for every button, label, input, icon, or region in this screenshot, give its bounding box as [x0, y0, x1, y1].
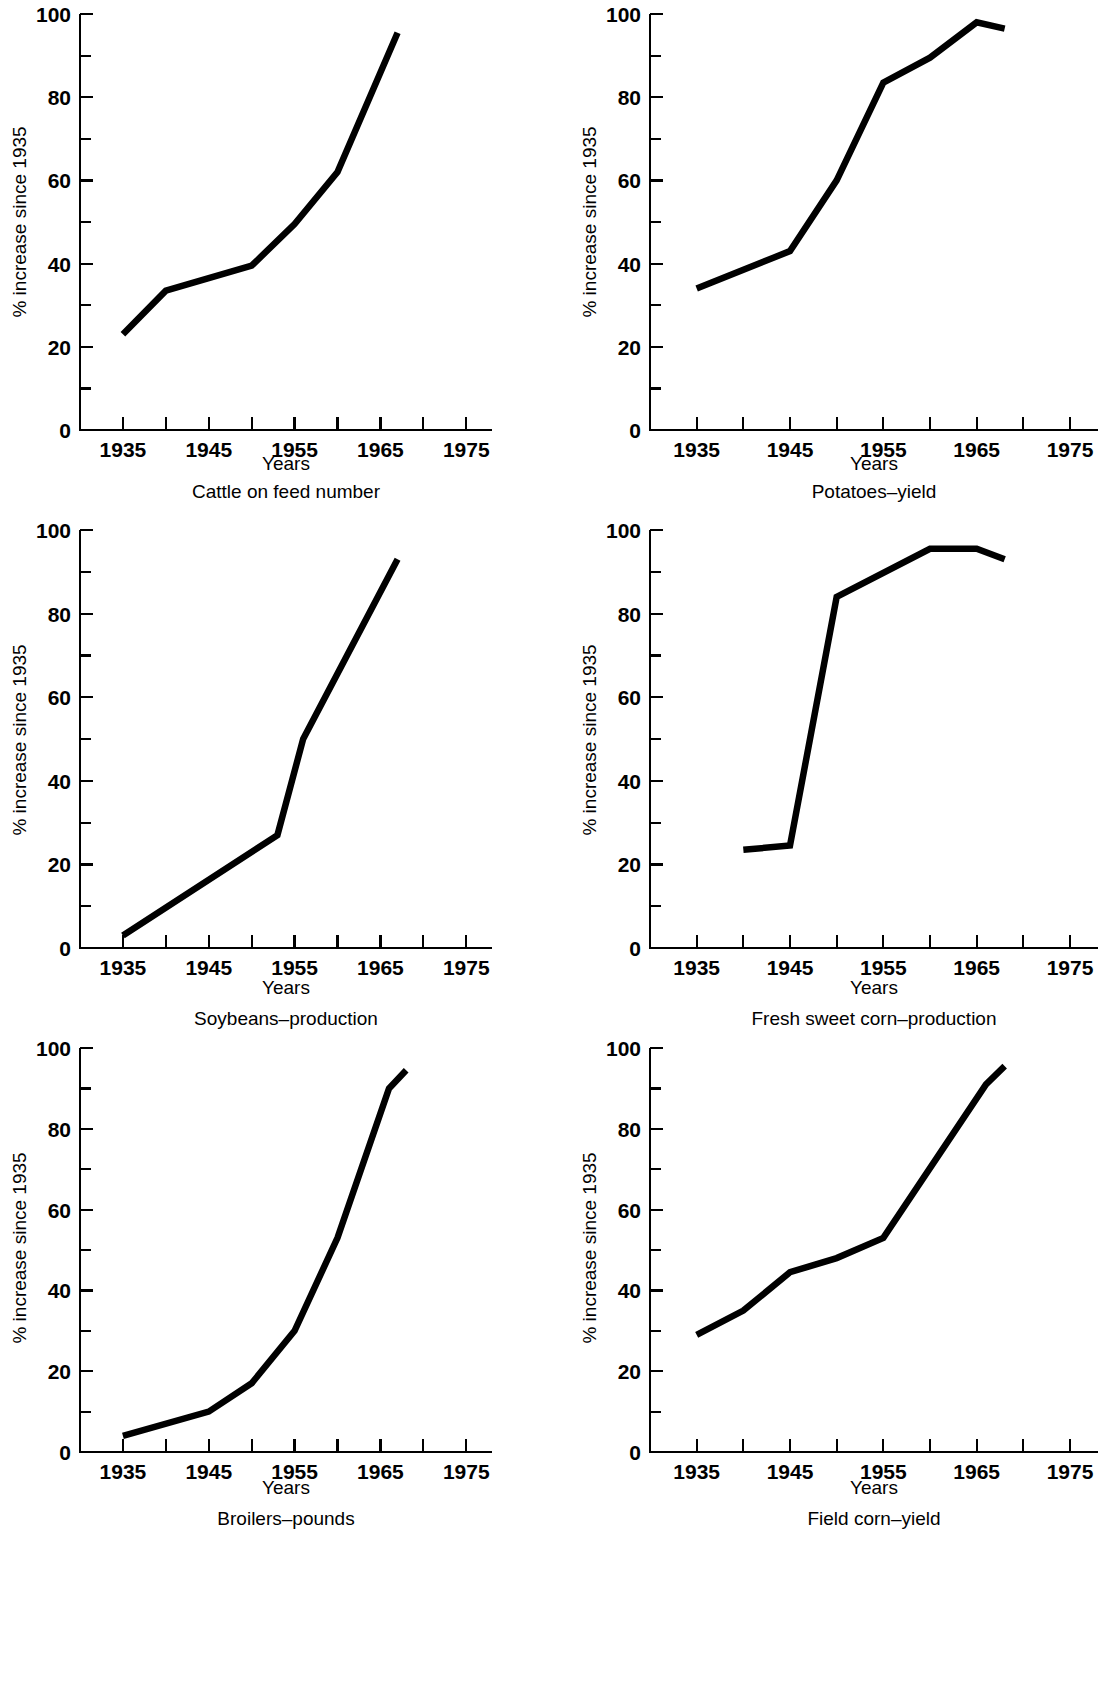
x-tick-label-1975: 1975	[443, 438, 490, 461]
y-tick-label-20: 20	[48, 1360, 71, 1383]
x-tick-label-1975: 1975	[1047, 1460, 1094, 1483]
x-tick-label-1945: 1945	[185, 956, 232, 979]
y-tick-label-0: 0	[59, 937, 71, 960]
y-tick-label-40: 40	[618, 253, 641, 276]
y-axis-title: % increase since 1935	[9, 126, 30, 317]
x-tick-label-1965: 1965	[953, 438, 1000, 461]
data-series-line	[123, 33, 398, 335]
y-axis-title: % increase since 1935	[579, 1152, 600, 1343]
x-tick-label-1965: 1965	[357, 438, 404, 461]
x-tick-label-1965: 1965	[953, 1460, 1000, 1483]
y-tick-label-100: 100	[606, 520, 641, 542]
data-series-line	[697, 22, 1005, 288]
x-tick-label-1975: 1975	[1047, 438, 1094, 461]
x-tick-label-1975: 1975	[1047, 956, 1094, 979]
x-axis-title: Years	[262, 453, 310, 474]
x-tick-label-1975: 1975	[443, 956, 490, 979]
plot-area-5: 02040608010019351945195519651975% increa…	[0, 1030, 552, 1694]
y-axis-title: % increase since 1935	[9, 1152, 30, 1343]
x-tick-label-1935: 1935	[673, 956, 720, 979]
x-axis-title: Years	[850, 453, 898, 474]
chart-panel-6: 02040608010019351945195519651975% increa…	[552, 1030, 1104, 1694]
y-tick-label-40: 40	[618, 770, 641, 793]
x-tick-label-1965: 1965	[953, 956, 1000, 979]
x-tick-label-1935: 1935	[673, 438, 720, 461]
y-tick-label-100: 100	[606, 1037, 641, 1060]
chart-grid: 02040608010019351945195519651975% increa…	[0, 0, 1104, 1694]
x-tick-label-1935: 1935	[673, 1460, 720, 1483]
x-tick-label-1945: 1945	[185, 1460, 232, 1483]
axis-lines	[80, 1048, 492, 1452]
y-tick-label-40: 40	[618, 1279, 641, 1302]
y-tick-label-0: 0	[59, 1441, 71, 1464]
plot-area-1: 02040608010019351945195519651975% increa…	[0, 0, 552, 520]
x-tick-label-1955: 1955	[271, 956, 318, 979]
x-tick-label-1935: 1935	[100, 956, 147, 979]
x-tick-label-1945: 1945	[185, 438, 232, 461]
panel-caption: Potatoes–yield	[812, 481, 937, 502]
y-tick-label-80: 80	[48, 86, 71, 109]
data-series-line	[697, 1066, 1005, 1335]
y-tick-label-60: 60	[618, 1199, 641, 1222]
axis-lines	[80, 530, 492, 948]
x-tick-label-1945: 1945	[767, 1460, 814, 1483]
data-series-line	[743, 549, 1004, 850]
y-tick-label-0: 0	[629, 937, 641, 960]
y-tick-label-40: 40	[48, 253, 71, 276]
y-tick-label-80: 80	[48, 603, 71, 626]
y-tick-label-60: 60	[618, 169, 641, 192]
y-tick-label-60: 60	[618, 686, 641, 709]
x-axis-title: Years	[850, 977, 898, 998]
y-tick-label-40: 40	[48, 1279, 71, 1302]
axis-lines	[650, 530, 1098, 948]
panel-caption: Cattle on feed number	[192, 481, 381, 502]
y-tick-label-20: 20	[48, 336, 71, 359]
y-tick-label-20: 20	[618, 1360, 641, 1383]
panel-caption: Soybeans–production	[194, 1008, 378, 1029]
y-tick-label-0: 0	[629, 419, 641, 442]
y-tick-label-100: 100	[36, 520, 71, 542]
x-tick-label-1975: 1975	[443, 1460, 490, 1483]
chart-panel-4: 02040608010019351945195519651975% increa…	[552, 520, 1104, 1030]
y-tick-label-60: 60	[48, 1199, 71, 1222]
y-tick-label-40: 40	[48, 770, 71, 793]
x-axis-title: Years	[262, 977, 310, 998]
y-tick-label-100: 100	[606, 3, 641, 26]
axis-lines	[650, 14, 1098, 430]
y-tick-label-20: 20	[618, 853, 641, 876]
y-tick-label-80: 80	[618, 1118, 641, 1141]
x-tick-label-1965: 1965	[357, 1460, 404, 1483]
y-tick-label-60: 60	[48, 169, 71, 192]
x-tick-label-1955: 1955	[860, 956, 907, 979]
chart-panel-5: 02040608010019351945195519651975% increa…	[0, 1030, 552, 1694]
y-tick-label-20: 20	[48, 853, 71, 876]
plot-area-2: 02040608010019351945195519651975% increa…	[552, 0, 1104, 520]
x-axis-title: Years	[262, 1477, 310, 1498]
panel-caption: Field corn–yield	[807, 1508, 940, 1529]
chart-panel-1: 02040608010019351945195519651975% increa…	[0, 0, 552, 520]
x-tick-label-1965: 1965	[357, 956, 404, 979]
y-tick-label-60: 60	[48, 686, 71, 709]
y-tick-label-0: 0	[629, 1441, 641, 1464]
data-series-line	[123, 559, 398, 935]
axis-lines	[80, 14, 492, 430]
data-series-line	[123, 1070, 406, 1436]
x-tick-label-1935: 1935	[100, 1460, 147, 1483]
panel-caption: Broilers–pounds	[217, 1508, 354, 1529]
y-axis-title: % increase since 1935	[579, 644, 600, 835]
x-tick-label-1945: 1945	[767, 438, 814, 461]
axis-lines	[650, 1048, 1098, 1452]
y-tick-label-20: 20	[618, 336, 641, 359]
y-tick-label-100: 100	[36, 1037, 71, 1060]
x-axis-title: Years	[850, 1477, 898, 1498]
y-axis-title: % increase since 1935	[579, 126, 600, 317]
chart-panel-3: 02040608010019351945195519651975% increa…	[0, 520, 552, 1030]
y-tick-label-0: 0	[59, 419, 71, 442]
y-tick-label-80: 80	[48, 1118, 71, 1141]
panel-caption: Fresh sweet corn–production	[751, 1008, 996, 1029]
plot-area-6: 02040608010019351945195519651975% increa…	[552, 1030, 1104, 1694]
y-tick-label-80: 80	[618, 86, 641, 109]
y-axis-title: % increase since 1935	[9, 644, 30, 835]
chart-panel-2: 02040608010019351945195519651975% increa…	[552, 0, 1104, 520]
x-tick-label-1935: 1935	[100, 438, 147, 461]
